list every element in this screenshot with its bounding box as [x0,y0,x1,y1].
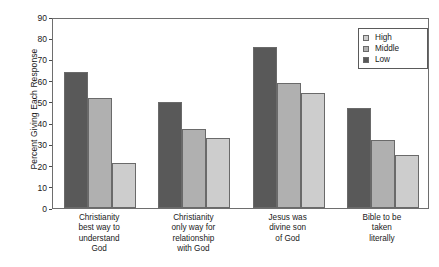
bar-middle [182,129,206,208]
bar-group [242,19,336,208]
y-tick: 10 [38,183,52,193]
x-axis-label-line: Bible to be [330,213,434,223]
y-tick: 70 [38,55,52,65]
y-tick: 20 [38,162,52,172]
y-tick-label: 90 [38,13,49,23]
legend-swatch-icon [363,46,369,52]
y-tick: 80 [38,34,52,44]
bar-high [301,93,325,208]
bar-high [112,163,136,208]
y-tick-label: 20 [38,162,49,172]
x-axis-label-line: Christianity [47,213,151,223]
x-axis-label: Bible to betakenliterally [330,213,434,244]
bar-high [206,138,230,208]
legend-swatch-icon [363,57,369,63]
bar-middle [371,140,395,208]
y-tick-label: 50 [38,98,49,108]
bar-middle [277,83,301,208]
bar-chart: Percent Giving Each Response 01020304050… [0,0,439,267]
x-axis-label-line: only way for [141,223,245,233]
x-axis-label-line: Christianity [141,213,245,223]
y-tick-label: 10 [38,183,49,193]
x-axis-label: Christianityonly way forrelationshipwith… [141,213,245,255]
bar-high [395,155,419,208]
y-tick-label: 40 [38,119,49,129]
x-axis-label-line: relationship [141,234,245,244]
x-axis-label-line: divine son [236,223,340,233]
y-tick: 50 [38,98,52,108]
y-tick: 60 [38,77,52,87]
x-axis-label-line: with God [141,244,245,254]
bar-low [158,102,182,208]
y-tick: 40 [38,119,52,129]
legend-item-low[interactable]: Low [363,54,423,65]
bar-low [347,108,371,208]
bar-group [147,19,241,208]
bar-low [64,72,88,208]
y-tick: 30 [38,140,52,150]
x-axis-label-line: literally [330,234,434,244]
bar-middle [88,98,112,208]
bar-low [253,47,277,208]
y-tick-label: 70 [38,55,49,65]
x-axis-label-line: understand [47,234,151,244]
legend-item-middle[interactable]: Middle [363,43,423,54]
x-axis-label: Christianitybest way tounderstandGod [47,213,151,255]
x-axis-label-line: best way to [47,223,151,233]
legend-swatch-icon [363,35,369,41]
x-axis-label: Jesus wasdivine sonof God [236,213,340,244]
bar-group [53,19,147,208]
y-tick-label: 60 [38,77,49,87]
x-axis-label-line: God [47,244,151,254]
legend-label: Low [375,55,390,64]
legend-item-high[interactable]: High [363,32,423,43]
x-axis-label-line: taken [330,223,434,233]
legend-label: High [375,33,392,42]
x-axis-label-line: of God [236,234,340,244]
legend-label: Middle [375,44,399,53]
y-tick-label: 80 [38,34,49,44]
legend: HighMiddleLow [358,28,428,69]
y-tick-label: 30 [38,140,49,150]
y-tick: 90 [38,13,52,23]
x-axis-label-line: Jesus was [236,213,340,223]
